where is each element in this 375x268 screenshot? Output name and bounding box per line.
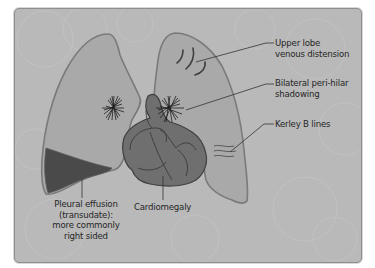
label-upper-lobe-line2: venous distension <box>275 49 349 60</box>
label-effusion-line4: right sided <box>48 231 124 242</box>
label-perihilar-line2: shadowing <box>275 89 348 100</box>
label-cardiomegaly-text: Cardiomegaly <box>134 202 191 213</box>
label-upper-lobe-line1: Upper lobe <box>275 38 349 49</box>
label-effusion-line1: Pleural effusion <box>48 199 124 210</box>
label-upper-lobe: Upper lobe venous distension <box>275 38 349 59</box>
label-perihilar-line1: Bilateral peri-hilar <box>275 78 348 89</box>
label-perihilar: Bilateral peri-hilar shadowing <box>275 78 348 99</box>
right-lung <box>42 34 141 194</box>
label-kerley: Kerley B lines <box>275 119 330 130</box>
label-effusion-line2: (transudate): <box>48 210 124 221</box>
label-kerley-text: Kerley B lines <box>275 119 330 130</box>
label-effusion: Pleural effusion (transudate): more comm… <box>48 199 124 241</box>
label-effusion-line3: more commonly <box>48 220 124 231</box>
label-cardiomegaly: Cardiomegaly <box>134 202 191 213</box>
